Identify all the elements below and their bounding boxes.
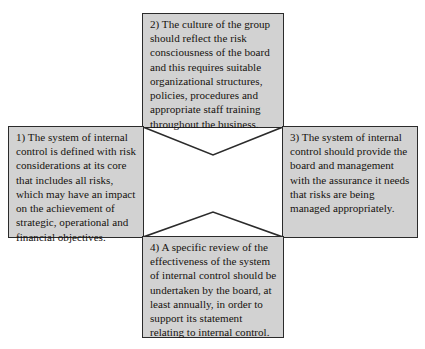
- statement-box-top[interactable]: 2) The culture of the group should refle…: [142, 13, 284, 128]
- statement-box-right-text: 3) The system of internal control should…: [283, 127, 417, 218]
- statement-box-left-text: 1) The system of internal control is def…: [9, 127, 143, 247]
- statement-box-top-text: 2) The culture of the group should refle…: [143, 14, 283, 134]
- statement-box-bottom-text: 4) A specific review of the effectivenes…: [143, 237, 283, 343]
- diagram-canvas: 2) The culture of the group should refle…: [0, 0, 425, 349]
- statement-box-left[interactable]: 1) The system of internal control is def…: [8, 126, 144, 238]
- statement-box-bottom[interactable]: 4) A specific review of the effectivenes…: [142, 236, 284, 338]
- statement-box-right[interactable]: 3) The system of internal control should…: [282, 126, 418, 238]
